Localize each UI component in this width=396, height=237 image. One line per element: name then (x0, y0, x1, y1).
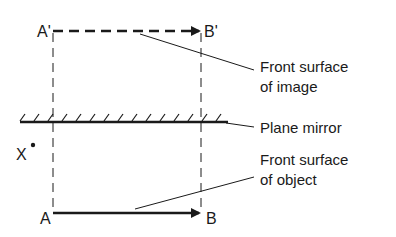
object-label-line1: Front surface (260, 151, 348, 168)
plane-mirror (20, 114, 228, 122)
image-label-line2: of image (260, 78, 318, 95)
mirror-leader-line (226, 123, 254, 127)
label-b: B (206, 210, 217, 227)
label-a-prime: A' (37, 23, 51, 40)
point-x-dot (31, 143, 35, 147)
label-a: A (40, 210, 51, 227)
image-leader-line (140, 34, 254, 70)
label-b-prime: B' (204, 23, 218, 40)
label-x: X (16, 146, 27, 163)
mirror-label: Plane mirror (260, 119, 342, 136)
object-leader-line (135, 177, 254, 209)
plane-mirror-diagram: A' B' A B X Front surface of image Plane… (0, 0, 396, 237)
object-label-line2: of object (260, 171, 318, 188)
image-label-line1: Front surface (260, 58, 348, 75)
